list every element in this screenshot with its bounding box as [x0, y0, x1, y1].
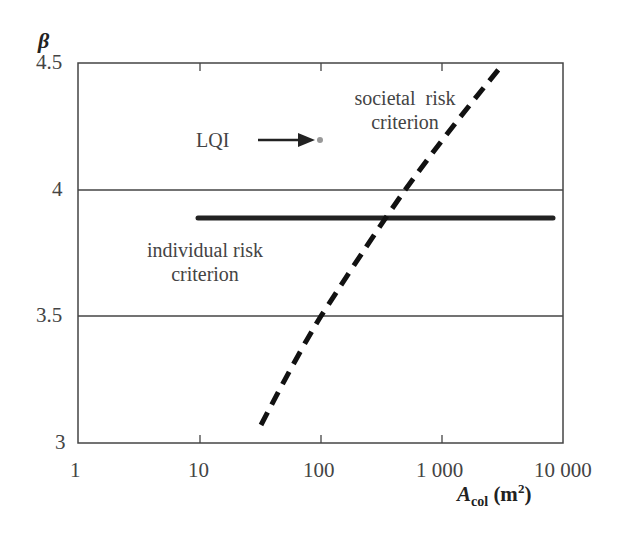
x-tick-100: 100	[303, 458, 335, 483]
lqi-arrow-head	[298, 133, 315, 147]
x-axis-label: Acol (m2)	[457, 481, 531, 510]
individual-risk-label-line2: criterion	[130, 262, 280, 286]
y-tick-4.5: 4.5	[36, 50, 62, 75]
individual-risk-label-line1: individual risk	[130, 238, 280, 262]
societal-risk-label-line2: criterion	[330, 110, 480, 134]
x-axis-label-main: A	[457, 482, 471, 506]
societal-risk-label-line1: societal risk	[330, 86, 480, 110]
lqi-label: LQI	[196, 128, 229, 152]
x-axis-label-sub: col	[471, 494, 488, 509]
y-tick-3.5: 3.5	[36, 303, 62, 328]
y-tick-4: 4	[52, 177, 63, 202]
y-tick-3: 3	[55, 430, 66, 455]
x-tick-10: 10	[188, 458, 209, 483]
societal-risk-label: societal risk criterion	[330, 86, 480, 134]
x-axis-label-unit: (m	[493, 482, 518, 506]
x-axis-label-close: )	[524, 482, 531, 506]
individual-risk-label: individual risk criterion	[130, 238, 280, 286]
x-tick-10000: 10 000	[534, 458, 592, 483]
chart-canvas	[0, 0, 629, 533]
x-tick-1000: 1 000	[416, 458, 463, 483]
x-tick-1: 1	[70, 458, 81, 483]
lqi-point	[317, 137, 323, 143]
